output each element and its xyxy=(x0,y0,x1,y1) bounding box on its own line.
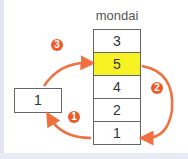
step-badge-3: 3 xyxy=(51,39,63,51)
arrow-step-2 xyxy=(142,66,172,138)
arrows xyxy=(0,0,188,159)
arrow-step-3 xyxy=(44,63,88,86)
step-badge-2: 2 xyxy=(151,82,163,94)
step-badge-1: 1 xyxy=(68,111,80,123)
